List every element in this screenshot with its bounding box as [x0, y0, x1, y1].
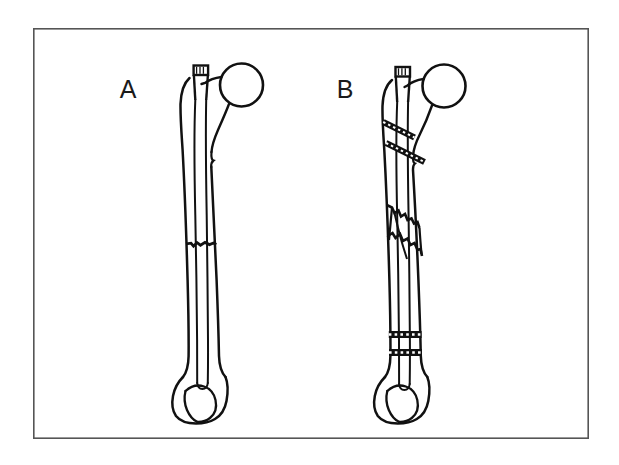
nail-shoulder-right-b	[408, 77, 410, 103]
nail-shoulder-left-b	[396, 77, 397, 103]
canvas-background	[0, 0, 619, 465]
femur-illustration-svg: A	[0, 0, 619, 465]
panel-b-label: B	[337, 75, 354, 103]
panel-a-label: A	[120, 75, 137, 103]
figure-container: A	[0, 0, 619, 465]
nail-shoulder-left-a	[194, 75, 195, 100]
nail-shoulder-right-a	[206, 75, 208, 100]
